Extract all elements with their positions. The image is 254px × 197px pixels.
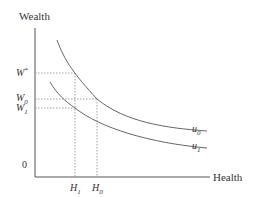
indifference-curve-diagram (0, 0, 254, 197)
curve-u1 (50, 82, 207, 148)
tick-w-star: W* (16, 68, 28, 78)
tick-w1: W1 (16, 103, 28, 113)
y-axis-label: Wealth (19, 11, 50, 21)
x-axis-label: Health (213, 172, 242, 182)
curve-label-u0: u0 (192, 124, 201, 134)
curve-label-u1: u1 (192, 141, 201, 151)
curve-u0 (57, 40, 207, 131)
tick-h1: H1 (70, 183, 81, 193)
tick-h0: H0 (92, 183, 103, 193)
origin-label: 0 (22, 160, 27, 170)
